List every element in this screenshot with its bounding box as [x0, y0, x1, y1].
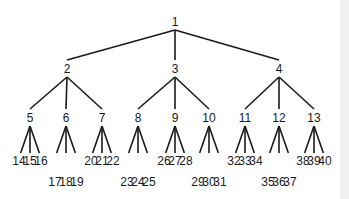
- edge-6-19: [66, 126, 75, 153]
- tree-diagram: 1234567891011121314151617181920212223242…: [0, 0, 349, 199]
- tree-edges: [21, 30, 324, 153]
- edge-6-17: [57, 126, 66, 153]
- edge-7-22: [102, 126, 111, 153]
- edge-5-14: [21, 126, 30, 153]
- tree-node-8: 8: [135, 111, 142, 125]
- tree-labels: 1234567891011121314151617181920212223242…: [12, 15, 332, 189]
- edge-13-38: [305, 126, 314, 153]
- edge-11-34: [245, 126, 254, 153]
- edge-1-2: [67, 30, 175, 60]
- edge-5-16: [30, 126, 39, 153]
- edge-12-37: [279, 126, 288, 153]
- tree-leaf-31: 31: [213, 175, 227, 189]
- edge-9-28: [175, 126, 184, 153]
- tree-leaf-16: 16: [34, 154, 48, 168]
- tree-leaf-34: 34: [249, 154, 263, 168]
- edge-10-29: [200, 126, 209, 153]
- tree-leaf-22: 22: [106, 154, 120, 168]
- edge-11-32: [236, 126, 245, 153]
- tree-leaf-28: 28: [179, 154, 193, 168]
- tree-node-5: 5: [27, 111, 34, 125]
- tree-node-12: 12: [272, 111, 286, 125]
- tree-node-7: 7: [99, 111, 106, 125]
- tree-leaf-25: 25: [142, 175, 156, 189]
- tree-node-6: 6: [63, 111, 70, 125]
- tree-node-10: 10: [202, 111, 216, 125]
- tree-node-2: 2: [64, 62, 71, 76]
- edge-2-6: [66, 77, 67, 109]
- tree-node-11: 11: [239, 111, 252, 125]
- tree-node-1: 1: [172, 15, 179, 29]
- tree-node-9: 9: [172, 111, 179, 125]
- edge-12-35: [270, 126, 279, 153]
- tree-node-3: 3: [172, 62, 179, 76]
- edge-3-8: [138, 77, 175, 109]
- tree-leaf-19: 19: [70, 175, 84, 189]
- edge-2-7: [67, 77, 102, 109]
- edge-8-25: [138, 126, 147, 153]
- tree-node-13: 13: [307, 111, 321, 125]
- edge-1-4: [175, 30, 279, 60]
- edge-8-23: [129, 126, 138, 153]
- edge-10-31: [209, 126, 218, 153]
- edge-4-11: [245, 77, 279, 109]
- edge-13-40: [314, 126, 323, 153]
- tree-leaf-40: 40: [318, 154, 332, 168]
- edge-7-20: [93, 126, 102, 153]
- tree-node-4: 4: [276, 62, 283, 76]
- edge-2-5: [30, 77, 67, 109]
- edge-4-13: [279, 77, 314, 109]
- edge-3-10: [175, 77, 209, 109]
- tree-leaf-37: 37: [283, 175, 297, 189]
- edge-9-26: [166, 126, 175, 153]
